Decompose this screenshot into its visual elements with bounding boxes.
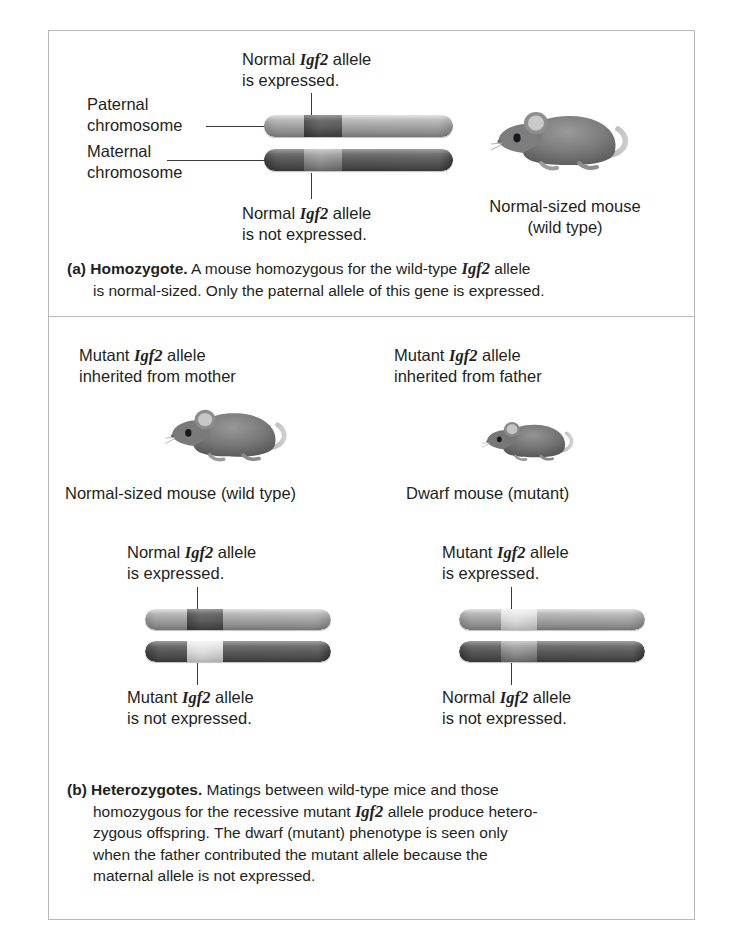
caption-b-tag: (b) Heterozygotes. bbox=[67, 781, 202, 798]
panel-a-homozygote: Normal Igf2 allele is expressed. Paterna… bbox=[49, 31, 694, 316]
panel-a-bottom-callout: Normal Igf2 allele is not expressed. bbox=[242, 203, 371, 245]
gene-name-igf2: Igf2 bbox=[497, 543, 525, 562]
callout-text-pre: Mutant bbox=[394, 346, 449, 364]
callout-text-pre: Normal bbox=[242, 50, 300, 68]
gene-name-igf2: Igf2 bbox=[355, 802, 383, 821]
callout-text-pre: Mutant bbox=[79, 346, 134, 364]
caption-b-line5: maternal allele is not expressed. bbox=[67, 865, 683, 887]
label-maternal-chromosome: Maternal chromosome bbox=[87, 141, 182, 183]
leader-line-paternal bbox=[206, 126, 265, 127]
panel-b-heterozygotes: Mutant Igf2 allele inherited from mother bbox=[49, 317, 694, 919]
panel-a-paternal-chromosome bbox=[264, 115, 453, 137]
label-inherited-from-father: Mutant Igf2 allele inherited from father bbox=[394, 345, 542, 387]
mouse-illustration-wild-type-offspring bbox=[154, 393, 304, 485]
panel-a-top-callout: Normal Igf2 allele is expressed. bbox=[242, 49, 371, 91]
label-paternal-chromosome: Paternal chromosome bbox=[87, 94, 182, 136]
chromosome-body bbox=[459, 641, 645, 662]
caption-b-line2-pre: homozygous for the recessive mutant bbox=[93, 803, 355, 820]
allele-band-normal-silenced bbox=[501, 641, 537, 662]
callout-text-pre: Mutant bbox=[127, 688, 182, 706]
label-normal-sized-mouse: Normal-sized mouse (wild type) bbox=[467, 196, 663, 238]
leader-line-maternal bbox=[167, 160, 265, 161]
label-normal-sized-mouse-wild-type: Normal-sized mouse (wild type) bbox=[65, 483, 296, 504]
callout-text-pre: Normal bbox=[242, 204, 300, 222]
panel-a-maternal-chromosome bbox=[264, 149, 453, 171]
caption-b-line4: when the father contributed the mutant a… bbox=[67, 844, 683, 866]
leader-line-right-bottom bbox=[511, 663, 512, 685]
gene-name-igf2: Igf2 bbox=[300, 50, 328, 69]
caption-a-line2: is normal-sized. Only the paternal allel… bbox=[67, 280, 679, 302]
chromosome-body bbox=[264, 149, 453, 171]
mouse-illustration-dwarf-mutant bbox=[474, 409, 586, 479]
gene-name-igf2: Igf2 bbox=[462, 259, 490, 278]
gene-name-igf2: Igf2 bbox=[500, 688, 528, 707]
panel-b-right-bottom-callout: Normal Igf2 allele is not expressed. bbox=[442, 687, 571, 729]
label-inherited-from-mother: Mutant Igf2 allele inherited from mother bbox=[79, 345, 236, 387]
chromosome-body bbox=[264, 115, 453, 137]
allele-band-normal-expressed bbox=[187, 609, 223, 630]
gene-name-igf2: Igf2 bbox=[185, 543, 213, 562]
chromosome-body bbox=[145, 641, 331, 662]
callout-text-pre: Normal bbox=[442, 688, 500, 706]
caption-b-line3: zygous offspring. The dwarf (mutant) phe… bbox=[67, 822, 683, 844]
caption-panel-a: (a) Homozygote. A mouse homozygous for t… bbox=[67, 258, 679, 301]
leader-line-bottom-callout bbox=[311, 173, 312, 199]
gene-name-igf2: Igf2 bbox=[182, 688, 210, 707]
caption-a-tag: (a) Homozygote. bbox=[67, 260, 188, 277]
callout-text-pre: Mutant bbox=[442, 543, 497, 561]
caption-b-line2-post: allele produce hetero- bbox=[383, 803, 537, 820]
figure-frame: Normal Igf2 allele is expressed. Paterna… bbox=[48, 30, 695, 920]
allele-band-mutant-silenced bbox=[187, 641, 223, 662]
leader-line-left-top bbox=[197, 587, 198, 611]
caption-a-line1-end: allele bbox=[490, 260, 531, 277]
panel-b-left-maternal-chromosome bbox=[145, 641, 331, 662]
chromosome-body bbox=[145, 609, 331, 630]
caption-b-line2: homozygous for the recessive mutant Igf2… bbox=[67, 801, 683, 823]
chromosome-body bbox=[459, 609, 645, 630]
mouse-illustration-wild-type bbox=[479, 93, 647, 197]
label-dwarf-mouse-mutant: Dwarf mouse (mutant) bbox=[406, 483, 569, 504]
allele-band-mutant-expressed bbox=[501, 609, 537, 630]
callout-text-pre: Normal bbox=[127, 543, 185, 561]
leader-line-left-bottom bbox=[197, 663, 198, 685]
allele-band-normal-silenced bbox=[304, 149, 342, 171]
gene-name-igf2: Igf2 bbox=[300, 204, 328, 223]
panel-b-right-top-callout: Mutant Igf2 allele is expressed. bbox=[442, 542, 569, 584]
gene-name-igf2: Igf2 bbox=[449, 346, 477, 365]
caption-b-line1: Matings between wild-type mice and those bbox=[202, 781, 498, 798]
gene-name-igf2: Igf2 bbox=[134, 346, 162, 365]
panel-b-left-top-callout: Normal Igf2 allele is expressed. bbox=[127, 542, 256, 584]
panel-b-right-paternal-chromosome bbox=[459, 609, 645, 630]
caption-a-line1: A mouse homozygous for the wild-type bbox=[188, 260, 462, 277]
panel-b-left-bottom-callout: Mutant Igf2 allele is not expressed. bbox=[127, 687, 254, 729]
caption-panel-b: (b) Heterozygotes. Matings between wild-… bbox=[67, 779, 683, 887]
panel-b-left-paternal-chromosome bbox=[145, 609, 331, 630]
panel-b-right-maternal-chromosome bbox=[459, 641, 645, 662]
leader-line-right-top bbox=[511, 587, 512, 611]
allele-band-normal-expressed bbox=[304, 115, 342, 137]
